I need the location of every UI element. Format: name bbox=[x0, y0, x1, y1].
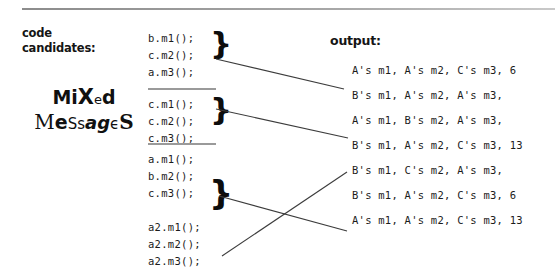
wire-block2-to-out4 bbox=[216, 109, 348, 138]
output-row: B's m1, C's m2, A's m3, bbox=[352, 164, 503, 176]
output-row: B's m1, A's m2, A's m3, bbox=[352, 89, 503, 101]
wire-block1-to-out2 bbox=[216, 59, 344, 89]
output-row: A's m1, B's m2, A's m3, bbox=[352, 114, 503, 126]
wire-block3b-to-out6 bbox=[222, 172, 347, 256]
output-row: B's m1, A's m2, C's m3, 13 bbox=[352, 139, 523, 151]
output-row: A's m1, A's m2, C's m3, 6 bbox=[352, 64, 516, 76]
output-row: B's m1, A's m2, C's m3, 6 bbox=[352, 189, 516, 201]
wire-block3-to-out7 bbox=[219, 196, 347, 231]
output-row: A's m1, A's m2, C's m3, 13 bbox=[352, 214, 523, 226]
